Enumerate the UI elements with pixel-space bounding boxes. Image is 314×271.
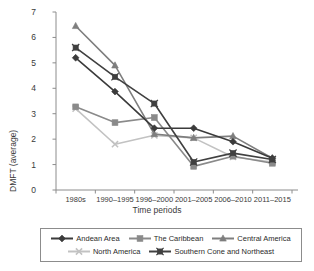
x-tick-label: 1990–1995 xyxy=(96,195,134,204)
legend-row-1: Andean AreaThe CaribbeanCentral America xyxy=(43,232,299,245)
legend-item-central-america[interactable]: Central America xyxy=(212,234,290,243)
marker-triangle xyxy=(72,22,79,28)
legend-label: The Caribbean xyxy=(154,235,204,243)
marker-diamond xyxy=(59,235,66,242)
series-andean-area xyxy=(72,54,275,161)
legend-marker-diamond xyxy=(51,234,73,243)
y-tick-label: 4 xyxy=(16,83,36,93)
legend-marker-x-square xyxy=(149,247,171,256)
marker-diamond xyxy=(190,125,197,132)
legend-label: North America xyxy=(93,248,141,256)
marker-square xyxy=(112,120,118,126)
y-tick-label: 1 xyxy=(16,160,36,170)
legend-label: Southern Cone and Northeast xyxy=(174,248,274,256)
legend-item-southern-cone-and-northeast[interactable]: Southern Cone and Northeast xyxy=(149,247,274,256)
series-line xyxy=(76,26,273,158)
x-tick-label: 1996–2000 xyxy=(136,195,174,204)
y-tick-label: 5 xyxy=(16,58,36,68)
legend-item-andean-area[interactable]: Andean Area xyxy=(51,234,119,243)
x-tick-label: 2001–2005 xyxy=(175,195,213,204)
chart-canvas xyxy=(42,12,298,190)
x-tick-label: 1980s xyxy=(65,195,85,204)
y-axis-title-wrap: DMFT (average) xyxy=(10,150,11,151)
x-tick-label: 2011–2015 xyxy=(254,195,291,204)
plot-inner: 01234567 1980s1990–19951996–20002001–200… xyxy=(42,12,298,190)
y-tick-label: 6 xyxy=(16,32,36,42)
y-tick-label: 7 xyxy=(16,7,36,17)
marker-square xyxy=(137,236,143,242)
series-central-america xyxy=(72,22,275,160)
series-line xyxy=(76,48,273,162)
y-tick-label: 0 xyxy=(16,185,36,195)
legend-item-the-caribbean[interactable]: The Caribbean xyxy=(129,234,204,243)
marker-square xyxy=(73,104,79,110)
legend-label: Central America xyxy=(237,235,290,243)
chart-legend: Andean AreaThe CaribbeanCentral America … xyxy=(40,228,302,262)
chart-figure: DMFT (average) 01234567 1980s1990–199519… xyxy=(0,0,314,271)
legend-label: Andean Area xyxy=(76,235,119,243)
legend-marker-square xyxy=(129,234,151,243)
plot-area: 01234567 1980s1990–19951996–20002001–200… xyxy=(42,12,298,190)
legend-marker-x xyxy=(68,247,90,256)
marker-square xyxy=(151,115,157,121)
x-axis-title: Time periods xyxy=(0,205,314,215)
legend-item-north-america[interactable]: North America xyxy=(68,247,141,256)
legend-marker-triangle xyxy=(212,234,234,243)
y-tick-label: 3 xyxy=(16,109,36,119)
y-tick-label: 2 xyxy=(16,134,36,144)
legend-row-2: North AmericaSouthern Cone and Northeast xyxy=(43,245,299,258)
caption-remnant xyxy=(22,0,252,3)
x-tick-label: 2006–2010 xyxy=(214,195,252,204)
marker-diamond xyxy=(230,138,237,145)
